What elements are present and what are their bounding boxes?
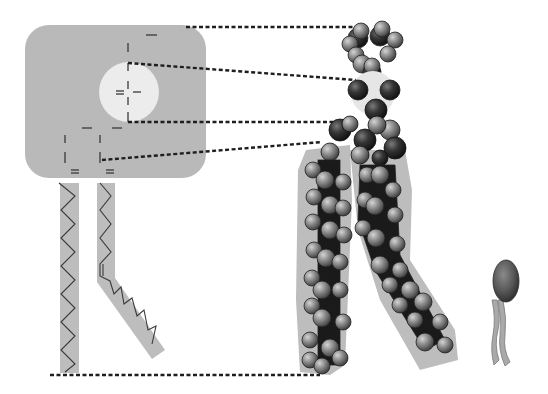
saturated-tail — [59, 183, 79, 373]
unsaturated-tail — [97, 183, 165, 359]
symbol-tail-left — [492, 300, 500, 365]
structural-formula — [25, 25, 206, 373]
glycerol-atoms — [321, 116, 406, 166]
symbol-head — [493, 260, 519, 302]
space-filling-model — [296, 21, 458, 375]
charged-group-circle — [99, 62, 159, 122]
phospholipid-symbol — [492, 260, 519, 366]
symbol-tail-right — [498, 300, 510, 366]
phospholipid-diagram — [0, 0, 548, 394]
